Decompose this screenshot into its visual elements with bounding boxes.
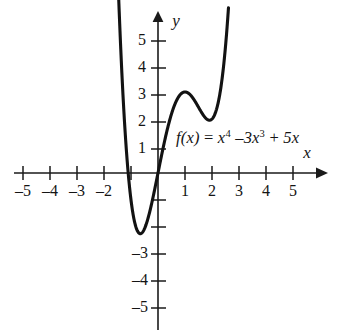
x-tick-label--4: –4 bbox=[41, 182, 58, 199]
x-tick-label-4: 4 bbox=[262, 182, 270, 199]
y-tick-label--5: –5 bbox=[131, 298, 148, 315]
y-tick-label-1: 1 bbox=[138, 139, 146, 156]
y-axis-label: y bbox=[170, 11, 180, 30]
coordinate-plot: –5 –4 –3 –2 1 2 3 4 5 5 4 3 2 1 –3 –4 –5… bbox=[0, 0, 350, 335]
equation-term3: 5x bbox=[283, 128, 299, 147]
x-tick-label--5: –5 bbox=[14, 182, 31, 199]
x-axis-label: x bbox=[302, 143, 311, 162]
y-tick-label--4: –4 bbox=[131, 271, 148, 288]
x-tick-label--2: –2 bbox=[95, 182, 112, 199]
equation-annotation: f(x) = x4 –3x3 + 5x bbox=[176, 128, 299, 148]
equation-operator-plus: + bbox=[265, 128, 283, 147]
y-tick-label-3: 3 bbox=[138, 85, 146, 102]
y-tick-label-4: 4 bbox=[138, 58, 146, 75]
y-axis-arrowhead bbox=[153, 11, 164, 22]
y-tick-label-5: 5 bbox=[138, 31, 146, 48]
x-tick-label-1: 1 bbox=[181, 182, 189, 199]
equation-operator-minus: – bbox=[231, 128, 244, 147]
equation-equals: = bbox=[200, 128, 218, 147]
equation-term2-coefficient: 3x bbox=[244, 128, 260, 147]
x-axis-arrowhead bbox=[316, 168, 328, 179]
graph-figure: –5 –4 –3 –2 1 2 3 4 5 5 4 3 2 1 –3 –4 –5… bbox=[0, 0, 350, 335]
x-tick-label-5: 5 bbox=[289, 182, 297, 199]
x-tick-label--3: –3 bbox=[68, 182, 85, 199]
x-tick-label-2: 2 bbox=[208, 182, 216, 199]
y-tick-label-2: 2 bbox=[138, 112, 146, 129]
x-tick-label-3: 3 bbox=[235, 182, 243, 199]
y-tick-label--3: –3 bbox=[131, 244, 148, 261]
equation-fx: f(x) bbox=[176, 128, 200, 147]
